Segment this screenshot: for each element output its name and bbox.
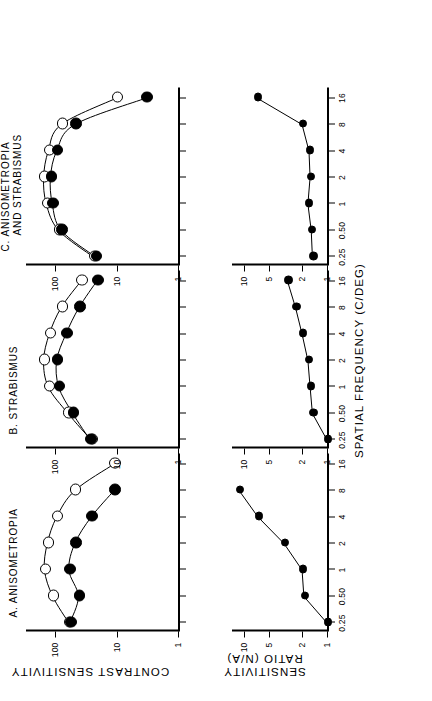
panel-c-top-x-tick-0.25 xyxy=(180,255,186,256)
panel-c-top-filled-marker-0 xyxy=(91,250,103,262)
panel-c-contrast-sensitivity: 110100 xyxy=(26,89,178,265)
panel-a-top-y-tick-label-100: 100 xyxy=(50,642,60,657)
panel-b-bottom-filled-marker-4 xyxy=(299,328,307,336)
panel-c-x-tick-label-8: 8 xyxy=(337,122,347,127)
panel-b-x-tick-label-8: 8 xyxy=(337,305,347,310)
panel-b-top-open-marker-6 xyxy=(76,274,87,285)
panel-b-bottom-y-tick-label-2: 2 xyxy=(297,459,307,464)
panel-c-bottom-x-tick-8 xyxy=(329,123,335,124)
panel-c-top-y-tick-1 xyxy=(178,265,179,271)
panel-c-bottom-y-tick-label-1: 1 xyxy=(322,276,332,281)
panel-c-bottom-y-tick-2 xyxy=(302,265,303,271)
panel-a-bottom-filled-marker-3 xyxy=(281,538,289,546)
panel-a-bottom-x-tick-8 xyxy=(329,489,335,490)
figure-canvas: 110100 110100 110100 0.250.5012481612510… xyxy=(0,0,432,701)
panel-a-title: A. ANISOMETROPIA xyxy=(8,508,20,617)
panel-c-x-tick-label-2: 2 xyxy=(337,175,347,180)
panel-b-bottom-x-tick-0.50 xyxy=(329,412,335,413)
panel-c-bottom-y-tick-label-5: 5 xyxy=(264,276,274,281)
panel-c-bottom-y-tick-label-2: 2 xyxy=(297,276,307,281)
panel-b-bottom-y-axis-line xyxy=(232,446,328,448)
panel-b-top-filled-marker-0 xyxy=(85,433,97,445)
panel-a-top-filled-marker-2 xyxy=(64,563,76,575)
panel-b-bottom-filled-marker-6 xyxy=(284,275,292,283)
panel-a-top-filled-marker-4 xyxy=(86,510,98,522)
panel-a-bottom-filled-marker-0 xyxy=(324,617,332,625)
panel-c-sensitivity-ratio: 0.250.5012481612510 xyxy=(232,89,327,265)
panel-a-top-x-tick-0.50 xyxy=(180,595,186,596)
panel-a-bottom-filled-marker-1 xyxy=(301,591,309,599)
panel-c-bottom-x-tick-4 xyxy=(329,150,335,151)
panel-b-x-tick-label-2: 2 xyxy=(337,358,347,363)
panel-a-x-tick-label-4: 4 xyxy=(337,514,347,519)
panel-b-top-x-tick-1 xyxy=(180,386,186,387)
panel-a-top-filled-marker-3 xyxy=(70,536,82,548)
panel-b-x-tick-label-4: 4 xyxy=(337,331,347,336)
panel-b-top-y-tick-100 xyxy=(55,448,56,454)
panel-c-bottom-x-tick-1 xyxy=(329,203,335,204)
panel-c-bottom-filled-marker-4 xyxy=(306,145,314,153)
panel-c-top-filled-marker-5 xyxy=(70,117,82,129)
panel-c-bottom-x-tick-0.25 xyxy=(329,255,335,256)
panel-a-top-open-marker-5 xyxy=(70,483,81,494)
panel-b-bottom-y-tick-5 xyxy=(269,448,270,454)
panel-a-bottom-y-tick-label-10: 10 xyxy=(239,642,249,652)
panel-c-bottom-filled-marker-1 xyxy=(308,225,316,233)
panel-b-bottom-y-tick-label-1: 1 xyxy=(322,459,332,464)
panel-b-sensitivity-ratio: 0.250.5012481612510 xyxy=(232,272,327,448)
panel-c-bottom-x-tick-2 xyxy=(329,176,335,177)
panel-c-x-tick-label-4: 4 xyxy=(337,148,347,153)
panel-c-bottom-y-tick-label-10: 10 xyxy=(239,276,249,286)
panel-b-top-x-tick-0.50 xyxy=(180,412,186,413)
panel-a-top-y-tick-1 xyxy=(178,631,179,637)
panel-b-x-tick-label-0.50: 0.50 xyxy=(337,404,347,421)
panel-a-bottom-x-tick-4 xyxy=(329,516,335,517)
panel-a-top-x-tick-4 xyxy=(180,516,186,517)
panel-b-x-tick-label-0.25: 0.25 xyxy=(337,431,347,448)
panel-b-top-y-tick-1 xyxy=(178,448,179,454)
panel-b-top-y-tick-label-100: 100 xyxy=(50,459,60,474)
panel-a-contrast-sensitivity: 110100 xyxy=(26,455,178,631)
panel-a-top-open-marker-3 xyxy=(43,536,54,547)
panel-c-top-y-tick-100 xyxy=(55,265,56,271)
panel-a-bottom-x-tick-1 xyxy=(329,569,335,570)
panel-c-title: C. ANISOMETROPIAAND STRABISMUS xyxy=(0,133,24,251)
panel-a-x-tick-label-16: 16 xyxy=(337,459,347,469)
panel-b-top-filled-marker-5 xyxy=(74,300,86,312)
panel-c-x-tick-label-0.50: 0.50 xyxy=(337,221,347,238)
panel-c-top-x-tick-8 xyxy=(180,123,186,124)
panel-a-x-tick-label-0.25: 0.25 xyxy=(337,614,347,631)
panel-b-bottom-y-tick-1 xyxy=(327,448,328,454)
panel-a-x-tick-label-8: 8 xyxy=(337,488,347,493)
panel-b-top-open-marker-3 xyxy=(39,353,50,364)
panel-c-bottom-filled-marker-2 xyxy=(305,198,313,206)
panel-a-bottom-y-tick-5 xyxy=(269,631,270,637)
panel-a-bottom-filled-marker-4 xyxy=(255,511,263,519)
panel-a-x-tick-label-2: 2 xyxy=(337,541,347,546)
panel-a-top-x-tick-2 xyxy=(180,542,186,543)
panel-c-title-line2: AND STRABISMUS xyxy=(12,133,24,251)
panel-c-bottom-filled-marker-0 xyxy=(309,251,317,259)
panel-b-bottom-filled-marker-3 xyxy=(305,355,313,363)
panel-b-bottom-x-tick-4 xyxy=(329,333,335,334)
y-axis-title-contrast-sensitivity: CONTRAST SENSITIVITY xyxy=(2,665,178,677)
panel-a-bottom-filled-marker-5 xyxy=(236,485,244,493)
panel-c-top-y-tick-label-10: 10 xyxy=(112,276,122,286)
panel-c-top-y-tick-10 xyxy=(117,265,118,271)
panel-b-top-filled-marker-3 xyxy=(52,353,64,365)
panel-b-contrast-sensitivity: 110100 xyxy=(26,272,178,448)
panel-a-title-line1: A. ANISOMETROPIA xyxy=(8,508,19,617)
panel-a-top-open-marker-4 xyxy=(52,510,63,521)
panel-c-bottom-y-axis-line xyxy=(232,263,328,265)
panel-c-top-x-tick-1 xyxy=(180,203,186,204)
y-axis-title-ratio-line2: RATIO (N/A) xyxy=(202,651,327,664)
panel-c-top-x-tick-4 xyxy=(180,150,186,151)
panel-b-top-filled-marker-4 xyxy=(61,327,73,339)
panel-a-top-y-tick-100 xyxy=(55,631,56,637)
panel-b-bottom-filled-marker-1 xyxy=(309,408,317,416)
panel-a-bottom-y-axis-line xyxy=(232,629,328,631)
panel-a-top-y-tick-label-1: 1 xyxy=(173,642,183,647)
panel-b-top-x-tick-2 xyxy=(180,359,186,360)
panel-c-top-filled-marker-3 xyxy=(46,170,58,182)
panel-b-top-filled-marker-1 xyxy=(68,406,80,418)
